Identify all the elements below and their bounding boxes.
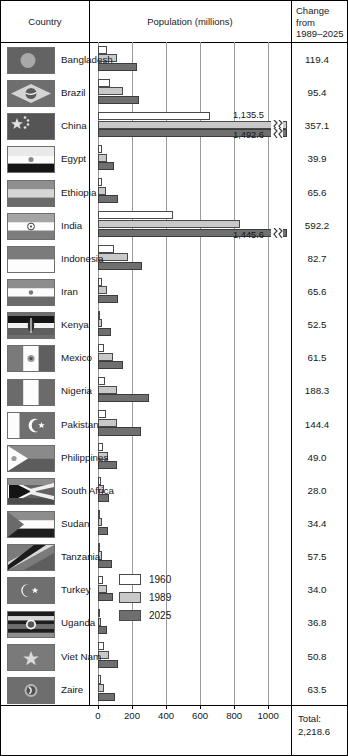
axis-tick — [268, 705, 269, 709]
change-value: 52.5 — [291, 307, 343, 342]
population-chart-page: Country Population (millions) Change fro… — [0, 0, 348, 756]
header-change-line2: from — [296, 17, 347, 29]
header-change-line3: 1989–2025 — [296, 28, 347, 40]
country-name: Egypt — [61, 141, 86, 176]
table-row: China357.1 — [1, 108, 347, 143]
change-value: 36.8 — [291, 606, 343, 641]
country-name: Mexico — [61, 340, 92, 375]
total-value: 2,218.6 — [298, 725, 347, 738]
south-africa-flag — [7, 478, 55, 505]
table-header: Country Population (millions) Change fro… — [1, 1, 347, 42]
change-value: 39.9 — [291, 141, 343, 176]
change-value: 119.4 — [291, 42, 343, 77]
table-row: India592.2 — [1, 208, 347, 243]
change-value: 65.6 — [291, 175, 343, 210]
table-row: Brazil95.4 — [1, 75, 347, 110]
philippines-flag — [7, 445, 55, 472]
total-cell: Total: 2,218.6 — [291, 705, 347, 755]
change-value: 95.4 — [291, 75, 343, 110]
change-value: 57.5 — [291, 539, 343, 574]
change-value: 82.7 — [291, 241, 343, 276]
axis-tick — [200, 705, 201, 709]
country-name: Kenya — [61, 307, 89, 342]
table-row: Egypt39.9 — [1, 141, 347, 176]
china-flag — [7, 113, 55, 140]
nigeria-flag — [7, 379, 55, 406]
bangladesh-flag — [7, 47, 55, 74]
pakistan-flag — [7, 412, 55, 439]
iran-flag — [7, 279, 55, 306]
legend-swatch-1989 — [119, 592, 141, 603]
brazil-flag — [7, 80, 55, 107]
table-row: Pakistan144.4 — [1, 407, 347, 442]
axis-tick — [98, 705, 99, 709]
country-name: Indonesia — [61, 241, 104, 276]
change-value: 188.3 — [291, 374, 343, 409]
header-change-line1: Change — [296, 5, 347, 17]
table-row: Indonesia82.7 — [1, 241, 347, 276]
country-name: Sudan — [61, 506, 89, 541]
country-name: Uganda — [61, 606, 95, 641]
change-value: 592.2 — [291, 208, 343, 243]
country-name: Ethiopia — [61, 175, 96, 210]
change-value: 28.0 — [291, 473, 343, 508]
egypt-flag — [7, 146, 55, 173]
country-rows: Bangladesh119.4Brazil95.4China357.1Egypt… — [1, 42, 347, 705]
axis-tick-label: 400 — [158, 710, 174, 721]
ethiopia-flag — [7, 180, 55, 207]
country-name: Nigeria — [61, 374, 92, 409]
country-name: Tanzania — [61, 539, 100, 574]
table-row: Zaire63.5 — [1, 672, 347, 707]
table-row: Tanzania57.5 — [1, 539, 347, 574]
table-row: South Africa28.0 — [1, 473, 347, 508]
country-name: Bangladesh — [61, 42, 113, 77]
legend-label: 1989 — [149, 591, 171, 604]
axis-tick-label: 800 — [226, 710, 242, 721]
axis-tick — [166, 705, 167, 709]
table-row: Nigeria188.3 — [1, 374, 347, 409]
country-name: Pakistan — [61, 407, 99, 442]
change-value: 34.0 — [291, 572, 343, 607]
change-value: 357.1 — [291, 108, 343, 143]
india-flag — [7, 213, 55, 240]
header-country: Country — [1, 1, 89, 42]
change-value: 49.0 — [291, 440, 343, 475]
x-axis: 02004006008001000 — [89, 705, 291, 727]
indonesia-flag — [7, 246, 55, 273]
zaire-flag — [7, 677, 55, 704]
legend-label: 2025 — [149, 609, 171, 622]
country-name: Viet Nam — [61, 639, 101, 674]
table-row: Ethiopia65.6 — [1, 175, 347, 210]
viet-nam-flag — [7, 644, 55, 671]
kenya-flag — [7, 312, 55, 339]
country-name: South Africa — [61, 473, 114, 508]
change-value: 61.5 — [291, 340, 343, 375]
sudan-flag — [7, 511, 55, 538]
legend-swatch-1960 — [119, 574, 141, 585]
total-label: Total: — [298, 712, 347, 725]
axis-tick — [234, 705, 235, 709]
table-row: Philippines49.0 — [1, 440, 347, 475]
axis-tick-label: 600 — [192, 710, 208, 721]
change-value: 34.4 — [291, 506, 343, 541]
change-value: 50.8 — [291, 639, 343, 674]
change-value: 65.6 — [291, 274, 343, 309]
country-name: Brazil — [61, 75, 86, 110]
table-row: Turkey34.0 — [1, 572, 347, 607]
legend-label: 1960 — [149, 573, 171, 586]
country-name: Zaire — [61, 672, 83, 707]
change-value: 144.4 — [291, 407, 343, 442]
country-name: China — [61, 108, 87, 143]
table-row: Iran65.6 — [1, 274, 347, 309]
table-row: Bangladesh119.4 — [1, 42, 347, 77]
axis-tick-label: 0 — [95, 710, 100, 721]
axis-tick-label: 1000 — [258, 710, 279, 721]
axis-tick-label: 200 — [124, 710, 140, 721]
country-name: Iran — [61, 274, 78, 309]
country-name: India — [61, 208, 82, 243]
header-change: Change from 1989–2025 — [291, 1, 347, 42]
uganda-flag — [7, 611, 55, 638]
change-value: 63.5 — [291, 672, 343, 707]
table-row: Mexico61.5 — [1, 340, 347, 375]
table-row: Uganda36.8 — [1, 606, 347, 641]
